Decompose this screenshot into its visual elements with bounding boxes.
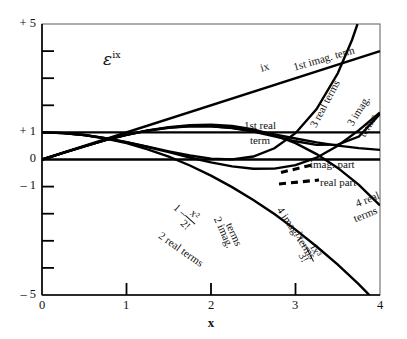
x-tick-label-1: 1: [116, 299, 136, 312]
x-tick-label-4: 4: [370, 299, 390, 312]
y-tick-label-minus1: – 1: [2, 179, 36, 192]
epsilon-glyph: ε: [103, 49, 112, 69]
y-tick-label-zero: 0: [2, 152, 36, 165]
y-tick-label-minus5: – 5: [2, 288, 36, 301]
epsilon-superscript: ix: [112, 49, 120, 60]
x-tick-label-2: 2: [201, 299, 221, 312]
y-tick-label-plus5: + 5: [2, 17, 36, 30]
label-1st-real-term-line1: 1st real: [232, 119, 288, 131]
x-tick-label-3: 3: [285, 299, 305, 312]
label-imag-part: imag. part: [310, 159, 355, 170]
label-1st-real-term-line2: term: [232, 134, 288, 146]
y-tick-label-plus1: + 1: [2, 125, 36, 138]
epsilon-ix-annotation: εix: [103, 50, 121, 68]
label-real-part: real part: [320, 177, 356, 188]
x-tick-label-0: 0: [32, 299, 52, 312]
x-axis-title: x: [196, 316, 226, 329]
figure-container: + 5 + 1 0 – 1 – 5 0 1 2 3 4 x εix ix 1st…: [0, 0, 407, 339]
